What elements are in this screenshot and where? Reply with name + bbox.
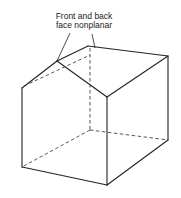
back-top-edge (88, 46, 168, 56)
front-left-roof-edge (22, 61, 57, 88)
front-bottom-edge (22, 167, 107, 185)
annotation-label: Front and back face nonplanar (50, 12, 118, 30)
right-top-edge (107, 56, 168, 97)
hidden-edges (22, 48, 168, 167)
annotation-line-2: face nonplanar (50, 21, 118, 30)
ridge-line (57, 46, 88, 61)
front-right-roof-edge (57, 61, 107, 97)
leader-back-face (92, 34, 95, 48)
solid-edges (22, 46, 168, 185)
hidden-back-roof-edge (24, 55, 90, 86)
leader-front-face (57, 33, 70, 61)
leader-lines (57, 33, 95, 61)
hidden-back-bottom-edge (90, 130, 168, 140)
hidden-left-bottom-edge (22, 130, 90, 167)
right-bottom-edge (107, 140, 168, 185)
